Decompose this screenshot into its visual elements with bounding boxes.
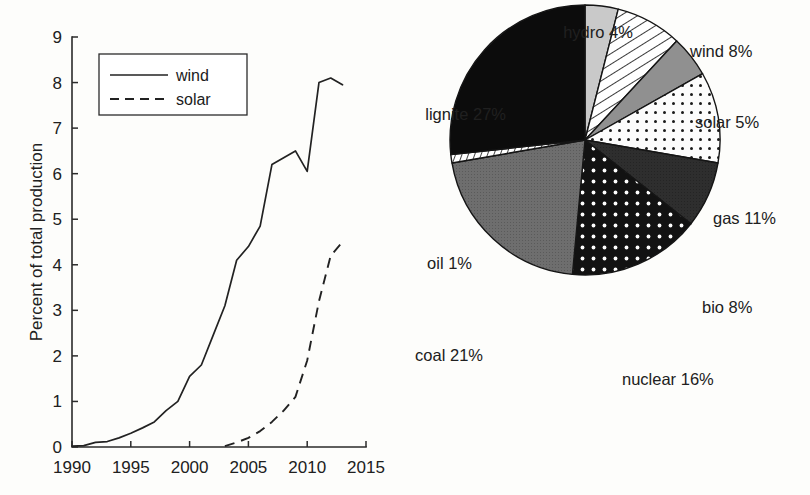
y-tick-label: 0 [53,438,62,457]
legend-box [99,54,247,115]
x-tick-label: 1995 [112,458,150,477]
y-tick-label: 2 [53,347,62,366]
line-chart: 199019952000200520102015 0123456789 Perc… [0,0,400,495]
pie-chart: hydro 4%wind 8%solar 5%gas 11%bio 8%nucl… [390,0,810,495]
series-line-solar [225,242,343,446]
x-tick-label: 2000 [171,458,209,477]
figure-root: 199019952000200520102015 0123456789 Perc… [0,0,810,495]
pie-label-oil: oil 1% [427,254,472,272]
x-axis-tick-labels: 199019952000200520102015 [53,458,385,477]
line-chart-series [72,78,342,446]
y-tick-label: 9 [53,28,62,47]
pie-chart-panel: hydro 4%wind 8%solar 5%gas 11%bio 8%nucl… [390,0,810,495]
pie-label-nuclear: nuclear 16% [622,370,714,388]
pie-label-coal: coal 21% [415,346,483,364]
pie-label-hydro: hydro 4% [563,23,633,41]
y-tick-label: 3 [53,301,62,320]
y-axis-title: Percent of total production [27,143,46,341]
y-axis-tick-labels: 0123456789 [53,28,62,457]
line-chart-panel: 199019952000200520102015 0123456789 Perc… [0,0,400,495]
series-line-wind [72,78,342,446]
x-tick-label: 2010 [288,458,326,477]
legend-label-wind: wind [175,67,209,84]
pie-label-bio: bio 8% [702,298,753,316]
pie-label-gas: gas 11% [713,209,776,227]
y-tick-label: 8 [53,74,62,93]
legend-label-solar: solar [176,91,211,108]
pie-label-lignite: lignite 27% [425,105,506,123]
y-tick-label: 6 [53,165,62,184]
y-tick-label: 5 [53,210,62,229]
x-tick-label: 2015 [347,458,385,477]
y-tick-label: 4 [53,256,62,275]
y-tick-label: 1 [53,392,62,411]
x-tick-label: 2005 [229,458,267,477]
y-tick-label: 7 [53,119,62,138]
x-tick-label: 1990 [53,458,91,477]
pie-label-wind: wind 8% [689,42,753,60]
pie-label-solar: solar 5% [695,113,760,131]
pie-slices [450,5,720,275]
chart-legend: wind solar [99,54,247,115]
